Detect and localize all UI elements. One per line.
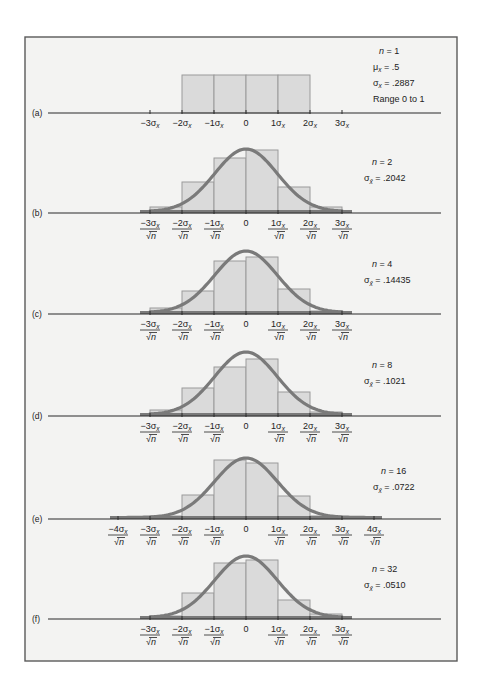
svg-text:√n: √n [338, 537, 348, 547]
histogram-bar [214, 75, 246, 113]
stat-line: n = 8 [372, 360, 392, 370]
svg-text:√n: √n [178, 537, 188, 547]
svg-text:√n: √n [146, 537, 156, 547]
tick-label: 0 [243, 524, 248, 534]
panel-label: (a) [32, 108, 43, 118]
svg-text:√n: √n [210, 231, 220, 241]
tick-label: 0 [243, 624, 248, 634]
svg-text:√n: √n [338, 332, 348, 342]
svg-text:√n: √n [210, 332, 220, 342]
stat-line: n = 2 [372, 157, 392, 167]
histogram-bar [214, 563, 246, 619]
svg-text:√n: √n [178, 332, 188, 342]
svg-text:√n: √n [146, 434, 156, 444]
stat-line: n = 1 [379, 46, 399, 56]
svg-text:√n: √n [370, 537, 380, 547]
svg-text:√n: √n [274, 537, 284, 547]
svg-text:√n: √n [146, 332, 156, 342]
svg-text:√n: √n [274, 231, 284, 241]
stat-line: Range 0 to 1 [373, 94, 425, 104]
histogram-bar [246, 560, 278, 619]
panel-label: (d) [32, 411, 43, 421]
histogram-bar [214, 460, 246, 519]
svg-text:√n: √n [306, 637, 316, 647]
histogram-bar [182, 388, 214, 416]
stat-line: μx = .5 [373, 62, 399, 73]
svg-text:√n: √n [210, 537, 220, 547]
panel-label: (f) [32, 614, 40, 624]
panel-label: (e) [32, 514, 43, 524]
tick-label: 0 [243, 218, 248, 228]
svg-text:√n: √n [306, 537, 316, 547]
stat-line: n = 32 [372, 564, 397, 574]
svg-text:√n: √n [338, 637, 348, 647]
svg-text:√n: √n [146, 637, 156, 647]
histogram-bar [246, 75, 278, 113]
histogram-bar [246, 257, 278, 314]
svg-text:√n: √n [306, 332, 316, 342]
svg-text:√n: √n [210, 434, 220, 444]
histogram-bar [246, 359, 278, 416]
svg-text:√n: √n [146, 231, 156, 241]
svg-text:√n: √n [178, 434, 188, 444]
tick-label: 0 [243, 118, 248, 128]
histogram-bar [246, 150, 278, 213]
histogram-bar [182, 75, 214, 113]
histogram-bar [278, 75, 310, 113]
svg-text:√n: √n [338, 231, 348, 241]
sampling-distribution-figure: (a)−3σx−2σx−1σx01σx2σx3σxn = 1μx = .5σx … [0, 0, 478, 687]
tick-label: 0 [243, 319, 248, 329]
histogram-bar [246, 463, 278, 519]
svg-text:√n: √n [274, 434, 284, 444]
svg-text:√n: √n [178, 637, 188, 647]
panel-label: (c) [32, 309, 42, 319]
svg-text:√n: √n [306, 231, 316, 241]
panel-label: (b) [32, 208, 43, 218]
svg-text:√n: √n [178, 231, 188, 241]
svg-text:√n: √n [114, 537, 124, 547]
tick-label: 0 [243, 421, 248, 431]
svg-text:√n: √n [274, 637, 284, 647]
histogram-bar [214, 367, 246, 416]
svg-text:√n: √n [306, 434, 316, 444]
stat-line: n = 16 [381, 466, 406, 476]
histogram-bar [182, 182, 214, 213]
stat-line: n = 4 [372, 259, 392, 269]
svg-text:√n: √n [274, 332, 284, 342]
svg-text:√n: √n [338, 434, 348, 444]
svg-text:√n: √n [210, 637, 220, 647]
